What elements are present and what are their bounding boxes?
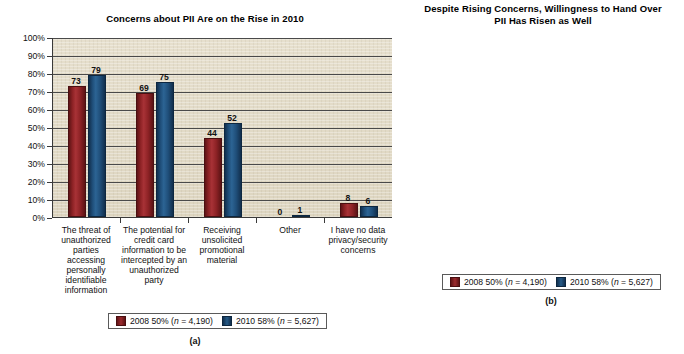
bar-2010 [88,75,106,217]
legend-item-2008: 2008 50% (n = 4,190) [450,277,547,287]
legend-item-2008: 2008 50% (n = 4,190) [116,316,213,326]
y-axis-tick-label: 80% [11,69,45,79]
x-axis-category-label: I have no data privacy/security concerns [325,225,391,255]
legend-label-2008: 2008 50% (n = 4,190) [130,316,213,326]
y-axis-tick [47,182,52,183]
legend-swatch-2008-icon [116,316,126,326]
bar-value-label: 75 [159,72,169,82]
y-axis-tick-label: 0% [11,213,45,223]
bar-2010 [360,206,378,217]
y-axis-tick [47,164,52,165]
legend-item-2010: 2010 58% (n = 5,627) [222,316,319,326]
y-axis-tick [47,74,52,75]
x-axis-category-label: Other [257,225,323,235]
chart-a-title: Concerns about PII Are on the Rise in 20… [40,13,370,25]
y-axis-tick [47,146,52,147]
bar-value-label: 0 [278,207,283,217]
x-axis-category-label: The threat of unauthorized parties acces… [53,225,119,295]
legend-swatch-2010-icon [556,277,566,287]
x-axis-category-tick [120,218,121,223]
y-axis-tick [47,92,52,93]
y-axis-tick [47,200,52,201]
bar-value-label: 52 [227,113,237,123]
legend-item-2010: 2010 58% (n = 5,627) [556,277,653,287]
bar-value-label: 69 [139,83,149,93]
x-axis-category-label: The potential for credit card informatio… [121,225,187,285]
y-axis-tick-label: 70% [11,87,45,97]
chart-panel-a: Concerns about PII Are on the Rise in 20… [0,0,396,354]
bar-value-label: 79 [91,65,101,75]
chart-b-title: Despite Rising Concerns, Willingness to … [418,3,668,26]
legend-swatch-2008-icon [450,277,460,287]
bar-2010 [156,82,174,217]
chart-b-legend: 2008 50% (n = 4,190)2010 58% (n = 5,627) [442,274,661,290]
gridline [53,38,392,39]
gridline [53,56,392,57]
bar-2010 [292,215,310,217]
x-axis-category-label: Receiving unsolicited promotional materi… [189,225,255,265]
y-axis-tick-label: 50% [11,123,45,133]
y-axis-tick-label: 90% [11,51,45,61]
y-axis-tick [47,218,52,219]
y-axis-tick [47,128,52,129]
bar-2008 [340,203,358,217]
bar-2008 [136,93,154,217]
y-axis-tick-label: 100% [11,33,45,43]
legend-label-2008: 2008 50% (n = 4,190) [464,277,547,287]
chart-a-legend: 2008 50% (n = 4,190)2010 58% (n = 5,627) [108,313,327,329]
y-axis-tick-label: 20% [11,177,45,187]
x-axis-category-tick [256,218,257,223]
bar-value-label: 73 [71,76,81,86]
bar-value-label: 8 [346,193,351,203]
legend-swatch-2010-icon [222,316,232,326]
legend-label-2010: 2010 58% (n = 5,627) [236,316,319,326]
y-axis-tick [47,38,52,39]
x-axis-category-tick [188,218,189,223]
x-axis-category-tick [324,218,325,223]
bar-value-label: 6 [366,196,371,206]
y-axis-tick [47,110,52,111]
bar-2008 [68,86,86,217]
chart-panel-b: Despite Rising Concerns, Willingness to … [396,0,684,354]
bar-2008 [204,138,222,217]
y-axis-tick [47,56,52,57]
legend-label-2010: 2010 58% (n = 5,627) [570,277,653,287]
chart-b-figure-label: (b) [521,296,581,306]
bar-2010 [224,123,242,217]
chart-a-figure-label: (a) [165,336,225,346]
bar-value-label: 44 [207,128,217,138]
chart-a-plot-area [52,38,392,218]
y-axis-tick-label: 30% [11,159,45,169]
bar-value-label: 1 [298,205,303,215]
y-axis-tick-label: 10% [11,195,45,205]
y-axis-tick-label: 60% [11,105,45,115]
y-axis-tick-label: 40% [11,141,45,151]
